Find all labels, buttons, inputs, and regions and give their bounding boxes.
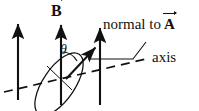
normal-leader-line — [88, 42, 146, 59]
rotation-axis-dashed-line — [4, 59, 146, 92]
angle-label: θ — [60, 43, 67, 57]
area-vector-letter: A — [164, 16, 175, 32]
vector-arrow-over-B: B — [51, 3, 62, 19]
field-vector-letter: B — [51, 2, 62, 19]
normal-label-prefix: normal to — [103, 16, 161, 32]
physics-vector-diagram: B normal toA axis θ — [0, 0, 199, 111]
vector-arrow-bar-a — [163, 13, 176, 14]
vector-arrow-over-A: A — [164, 17, 175, 32]
axis-label: axis — [152, 50, 176, 65]
field-vector-label: B — [51, 3, 62, 19]
normal-label: normal toA — [103, 17, 175, 32]
